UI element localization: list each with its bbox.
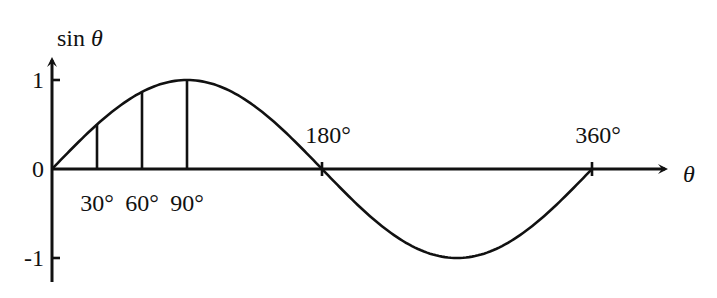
y-tick-label: 1 [32, 67, 44, 93]
y-tick-label: -1 [24, 245, 44, 271]
axes [52, 60, 665, 282]
x-axis-label: θ [683, 161, 695, 187]
x-tick-label: 360° [575, 122, 621, 148]
y-tick-label: 0 [32, 156, 44, 182]
y-axis-label-var: θ [91, 25, 103, 51]
sine-wave-chart: sin θ θ 10-1180°360°30°60°90° [0, 0, 717, 298]
y-axis-label-func: sin [57, 25, 91, 51]
angle-marker-label: 60° [125, 190, 159, 216]
angle-marker-label: 90° [170, 190, 204, 216]
labels: sin θ θ 10-1180°360°30°60°90° [24, 25, 695, 271]
angle-marker-label: 30° [80, 190, 114, 216]
y-axis-label: sin θ [57, 25, 103, 51]
x-tick-label: 180° [305, 122, 351, 148]
